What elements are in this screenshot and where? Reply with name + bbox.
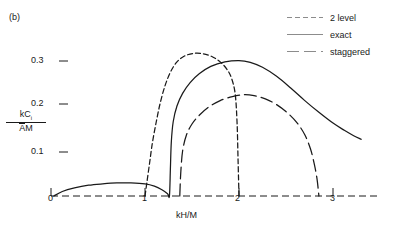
y-axis-label-numerator-subscript: i: [31, 115, 32, 121]
legend-label-2-level: 2 level: [330, 13, 356, 23]
x-axis-tick-label-3: 3: [330, 194, 335, 203]
legend-swatch-staggered: [287, 51, 323, 52]
legend-label-exact: exact: [330, 30, 352, 40]
legend-item-exact: exact: [287, 26, 399, 43]
y-axis-tick-label-0-2: 0.2: [31, 99, 44, 108]
legend-item-2-level: 2 level: [287, 9, 399, 26]
x-axis-tick-label-1: 1: [142, 194, 147, 203]
legend-label-staggered: staggered: [330, 47, 370, 57]
y-axis-ticks: [59, 61, 68, 152]
x-axis-ticks: [51, 188, 333, 196]
y-axis-label: kCi AM: [6, 110, 46, 134]
y-axis-label-numerator-text: kC: [20, 109, 31, 119]
x-axis-tick-label-2: 2: [235, 194, 240, 203]
y-axis-label-denominator: AM: [6, 122, 46, 133]
axis-group: [51, 61, 380, 196]
y-axis-tick-label-0-1: 0.1: [31, 147, 44, 156]
legend: 2 level exact staggered: [287, 9, 399, 60]
series-line-exact: [54, 61, 361, 198]
y-axis-tick-label-0-3: 0.3: [31, 56, 44, 65]
data-series-group: [54, 53, 361, 197]
series-line-staggered: [180, 95, 319, 196]
y-axis-label-denominator-text: M: [25, 123, 33, 133]
legend-swatch-2-level: [287, 17, 323, 18]
x-axis-label: kH/M: [176, 211, 197, 220]
y-axis-label-denominator-overbar: A: [19, 124, 25, 133]
panel-label: (b): [9, 13, 20, 22]
x-axis-tick-label-0: 0: [48, 194, 53, 203]
legend-swatch-exact: [287, 34, 323, 35]
chart-figure: (b) 0.3 0.2 0.1 0 1 2 3 kH/M kCi AM 2 le…: [0, 0, 404, 232]
legend-item-staggered: staggered: [287, 43, 399, 60]
y-axis-label-numerator: kCi: [6, 110, 46, 122]
